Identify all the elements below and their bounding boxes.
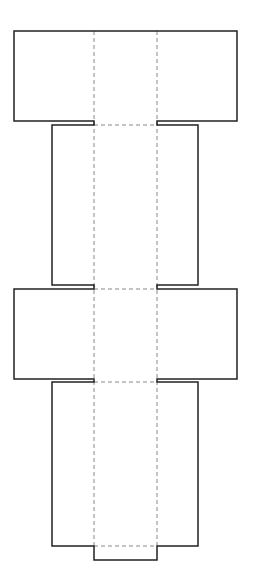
fold-lines	[94, 31, 157, 546]
cut-outline	[14, 31, 237, 560]
box-net-diagram	[0, 0, 253, 586]
